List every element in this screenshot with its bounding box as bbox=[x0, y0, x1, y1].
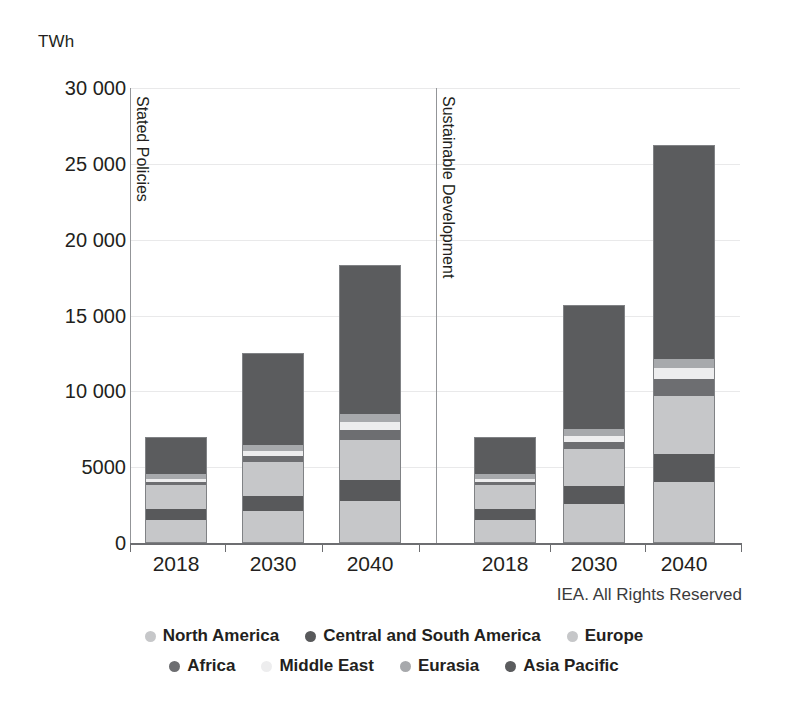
legend-swatch-icon bbox=[145, 631, 156, 642]
bar-segment bbox=[340, 422, 400, 430]
bar-segment bbox=[654, 359, 714, 368]
gridline bbox=[130, 467, 740, 468]
attribution-text: IEA. All Rights Reserved bbox=[557, 585, 742, 605]
y-axis-line bbox=[130, 88, 131, 544]
y-axis-tick-label: 5000 bbox=[6, 456, 126, 479]
legend-label: Central and South America bbox=[323, 626, 541, 646]
bar-segment bbox=[654, 396, 714, 454]
bar-segment bbox=[146, 438, 206, 474]
bar-segment bbox=[564, 449, 624, 487]
x-axis-line bbox=[130, 543, 742, 545]
bar-segment bbox=[475, 438, 535, 474]
x-axis-category-label: 2040 bbox=[634, 552, 734, 576]
gridline bbox=[130, 391, 740, 392]
legend-swatch-icon bbox=[261, 661, 272, 672]
bar-segment bbox=[564, 486, 624, 503]
legend-swatch-icon bbox=[169, 661, 180, 672]
bar-segment bbox=[564, 442, 624, 449]
panel-divider-line bbox=[436, 88, 437, 544]
legend-item[interactable]: Asia Pacific bbox=[505, 656, 618, 676]
bar-segment bbox=[564, 504, 624, 542]
legend-item[interactable]: Central and South America bbox=[305, 626, 541, 646]
legend-swatch-icon bbox=[400, 661, 411, 672]
gridline bbox=[130, 164, 740, 165]
y-axis-tick-label: 25 000 bbox=[6, 152, 126, 175]
y-axis-tick-label: 30 000 bbox=[6, 77, 126, 100]
y-axis-unit-label: TWh bbox=[38, 32, 74, 52]
bar-segment bbox=[654, 379, 714, 396]
legend-row: AfricaMiddle EastEurasiaAsia Pacific bbox=[0, 656, 788, 676]
bar-segment bbox=[243, 462, 303, 495]
gridline bbox=[130, 88, 740, 89]
stacked-bar bbox=[242, 353, 304, 543]
legend-swatch-icon bbox=[505, 661, 516, 672]
x-axis-category-label: 2018 bbox=[455, 552, 555, 576]
bar-segment bbox=[340, 430, 400, 441]
bar-segment bbox=[243, 354, 303, 446]
legend-item[interactable]: Middle East bbox=[261, 656, 373, 676]
legend-item[interactable]: Europe bbox=[567, 626, 644, 646]
stacked-bar bbox=[653, 145, 715, 543]
x-axis-tick bbox=[550, 543, 551, 552]
x-axis-tick bbox=[322, 543, 323, 552]
legend-label: Middle East bbox=[279, 656, 373, 676]
stacked-bar bbox=[474, 437, 536, 543]
x-axis-category-label: 2030 bbox=[544, 552, 644, 576]
legend-item[interactable]: Eurasia bbox=[400, 656, 479, 676]
stacked-bar bbox=[339, 265, 401, 543]
y-axis-tick-label: 20 000 bbox=[6, 228, 126, 251]
bar-segment bbox=[243, 496, 303, 512]
stacked-bar bbox=[563, 305, 625, 543]
legend-label: Asia Pacific bbox=[523, 656, 618, 676]
x-axis-category-label: 2040 bbox=[320, 552, 420, 576]
x-axis-tick bbox=[645, 543, 646, 552]
bar-segment bbox=[243, 511, 303, 542]
bar-segment bbox=[340, 480, 400, 500]
gridline bbox=[130, 316, 740, 317]
y-axis-tick-label: 10 000 bbox=[6, 380, 126, 403]
bar-segment bbox=[340, 414, 400, 422]
chart-legend: North AmericaCentral and South AmericaEu… bbox=[0, 626, 788, 686]
bar-segment bbox=[340, 266, 400, 414]
y-axis-tick-label: 15 000 bbox=[6, 304, 126, 327]
x-axis-tick bbox=[419, 543, 420, 552]
bar-segment bbox=[654, 368, 714, 379]
legend-item[interactable]: Africa bbox=[169, 656, 235, 676]
panel-label-sustainable-development: Sustainable Development bbox=[439, 96, 457, 278]
legend-swatch-icon bbox=[567, 631, 578, 642]
bar-segment bbox=[654, 482, 714, 542]
legend-row: North AmericaCentral and South AmericaEu… bbox=[0, 626, 788, 646]
legend-label: North America bbox=[163, 626, 280, 646]
bar-segment bbox=[475, 485, 535, 510]
x-axis-category-label: 2018 bbox=[126, 552, 226, 576]
legend-swatch-icon bbox=[305, 631, 316, 642]
bar-segment bbox=[475, 509, 535, 519]
stacked-bar-chart: TWh 0500010 00015 00020 00025 00030 000 … bbox=[0, 0, 788, 728]
stacked-bar bbox=[145, 437, 207, 543]
bar-segment bbox=[146, 485, 206, 510]
x-axis-tick bbox=[225, 543, 226, 552]
gridline bbox=[130, 240, 740, 241]
legend-item[interactable]: North America bbox=[145, 626, 280, 646]
x-axis-tick bbox=[741, 543, 742, 552]
panel-label-stated-policies: Stated Policies bbox=[133, 96, 151, 202]
bar-segment bbox=[340, 501, 400, 542]
legend-label: Europe bbox=[585, 626, 644, 646]
bar-segment bbox=[654, 454, 714, 482]
x-axis-category-label: 2030 bbox=[223, 552, 323, 576]
legend-label: Eurasia bbox=[418, 656, 479, 676]
bar-segment bbox=[146, 509, 206, 519]
bar-segment bbox=[564, 306, 624, 429]
bar-segment bbox=[475, 520, 535, 542]
bar-segment bbox=[564, 429, 624, 436]
y-axis-tick-label: 0 bbox=[6, 532, 126, 555]
bar-segment bbox=[654, 146, 714, 359]
x-axis-tick bbox=[130, 543, 131, 552]
bar-segment bbox=[146, 520, 206, 542]
legend-label: Africa bbox=[187, 656, 235, 676]
plot-area bbox=[130, 88, 740, 543]
bar-segment bbox=[340, 440, 400, 480]
